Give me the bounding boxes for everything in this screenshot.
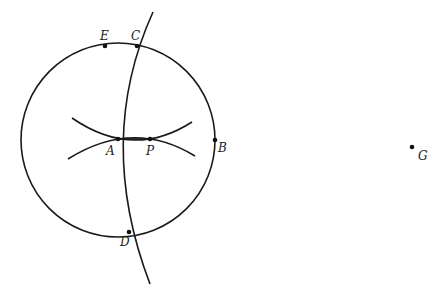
label-b: B <box>217 141 227 155</box>
label-e: E <box>99 29 109 43</box>
point-b <box>213 138 218 143</box>
point-d <box>127 230 132 235</box>
label-g: G <box>418 149 428 163</box>
point-g <box>410 145 415 150</box>
geometry-diagram: E C A P B D G <box>0 0 436 295</box>
point-e <box>103 44 108 49</box>
upper-crossing-arc <box>72 118 192 140</box>
label-p: P <box>145 144 155 158</box>
label-c: C <box>131 29 140 43</box>
point-p <box>148 137 153 142</box>
lower-crossing-arc <box>68 138 195 159</box>
label-a: A <box>105 144 115 158</box>
label-d: D <box>119 235 130 249</box>
point-c <box>135 44 140 49</box>
point-a <box>116 137 121 142</box>
